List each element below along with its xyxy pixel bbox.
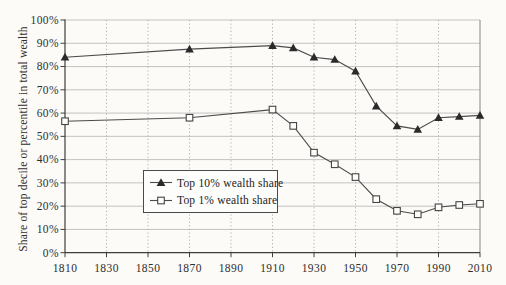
data-point-triangle <box>372 102 381 110</box>
data-point-square <box>290 123 297 130</box>
x-tick-label: 2010 <box>468 262 493 274</box>
data-point-square <box>311 149 318 156</box>
wealth-share-chart: Share of top decile or percentile in tot… <box>0 0 506 285</box>
data-point-square <box>394 208 401 215</box>
y-tick-label: 100% <box>31 14 59 26</box>
data-point-square <box>373 196 380 203</box>
data-point-triangle <box>268 41 277 49</box>
x-tick-label: 1950 <box>343 262 368 274</box>
data-point-square <box>435 204 442 211</box>
y-tick-label: 0% <box>43 247 59 259</box>
x-tick-label: 1830 <box>94 262 119 274</box>
data-point-square <box>331 161 338 168</box>
data-point-square <box>62 118 69 125</box>
square-marker-icon <box>150 195 172 206</box>
y-tick-label: 80% <box>37 60 59 72</box>
x-tick-label: 1990 <box>426 262 451 274</box>
y-tick-label: 90% <box>37 37 59 49</box>
y-tick-label: 10% <box>37 223 59 235</box>
data-point-triangle <box>351 67 360 75</box>
data-point-square <box>186 114 193 121</box>
y-tick-label: 60% <box>37 107 59 119</box>
x-tick-label: 1850 <box>136 262 161 274</box>
legend-label-top1: Top 1% wealth share <box>177 194 277 206</box>
x-tick-label: 1870 <box>177 262 202 274</box>
legend-item-top10: Top 10% wealth share <box>150 177 277 189</box>
plot-area: 0%10%20%30%40%50%60%70%80%90%100%1810183… <box>0 0 506 285</box>
y-tick-label: 70% <box>37 84 59 96</box>
x-tick-label: 1810 <box>53 262 78 274</box>
x-tick-label: 1890 <box>219 262 244 274</box>
legend-item-top1: Top 1% wealth share <box>150 194 277 206</box>
x-tick-label: 1930 <box>302 262 327 274</box>
x-tick-label: 1910 <box>260 262 285 274</box>
data-point-square <box>352 174 359 181</box>
data-point-square <box>477 201 484 208</box>
triangle-marker-icon <box>150 177 172 188</box>
data-point-square <box>456 202 463 209</box>
data-point-square <box>414 211 421 218</box>
legend-label-top10: Top 10% wealth share <box>177 177 283 189</box>
legend: Top 10% wealth share Top 1% wealth share <box>143 170 278 213</box>
series-line-0 <box>65 46 480 130</box>
y-tick-label: 30% <box>37 177 59 189</box>
data-point-square <box>269 106 276 113</box>
y-tick-label: 20% <box>37 200 59 212</box>
data-point-triangle <box>476 111 485 119</box>
x-tick-label: 1970 <box>385 262 410 274</box>
y-tick-label: 40% <box>37 153 59 165</box>
data-point-triangle <box>310 53 319 61</box>
y-tick-label: 50% <box>37 130 59 142</box>
